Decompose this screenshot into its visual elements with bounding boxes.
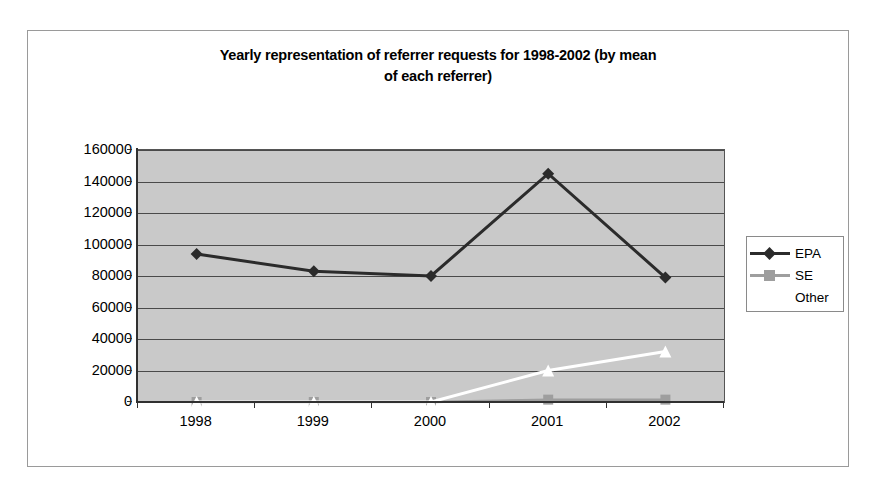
series-plot [138,150,724,402]
y-axis-tick-mark [127,149,132,150]
x-axis-tick-label: 2000 [414,413,446,429]
legend-marker-triangle-icon [764,292,776,303]
x-axis-tick-mark [137,401,138,408]
x-axis-tick-mark [371,401,372,408]
series-line [197,174,666,278]
plot-area [137,149,725,403]
y-axis-tick-label: 140000 [50,173,132,189]
x-axis-tick-mark [254,401,255,408]
data-point [543,395,553,405]
y-axis-line [136,148,138,403]
chart-legend: EPASEOther [746,236,844,312]
x-axis-tick-label: 1999 [297,413,329,429]
data-point [308,265,320,277]
x-axis-tick-labels: 19981999200020012002 [137,413,723,439]
legend-swatch-triangle-icon [750,290,790,304]
chart-title: Yearly representation of referrer reques… [88,45,788,87]
y-axis-tick-label: 60000 [50,299,132,315]
legend-item-other[interactable]: Other [751,286,837,308]
data-point [660,395,670,405]
y-axis-tick-mark [127,370,132,371]
y-axis-tick-label: 160000 [50,141,132,157]
legend-label: SE [795,268,837,283]
y-axis-tick-label: 20000 [50,362,132,378]
y-axis-tick-mark [127,212,132,213]
chart-frame: Yearly representation of referrer reques… [27,30,849,467]
x-axis-tick-label: 1998 [179,413,211,429]
legend-label: EPA [795,246,837,261]
x-axis-line [136,401,724,403]
y-axis-tick-mark [127,338,132,339]
y-axis-tick-mark [127,401,132,402]
y-axis-tick-label: 0 [50,393,132,409]
y-axis-tick-label: 40000 [50,330,132,346]
legend-item-se[interactable]: SE [751,264,837,286]
chart-title-line-1: Yearly representation of referrer reques… [88,45,788,66]
y-axis-tick-label: 100000 [50,236,132,252]
x-axis-tick-mark [489,401,490,408]
y-axis-tick-label: 80000 [50,267,132,283]
legend-label: Other [795,290,837,305]
x-axis-tick-mark [723,401,724,408]
y-axis-tick-label: 120000 [50,204,132,220]
data-point [191,248,203,260]
y-axis-tick-mark [127,307,132,308]
y-axis-tick-labels: 0200004000060000800001000001200001400001… [44,149,132,401]
x-axis-tick-label: 2001 [531,413,563,429]
legend-swatch-diamond-icon [750,246,790,260]
x-axis-tick-label: 2002 [648,413,680,429]
legend-item-epa[interactable]: EPA [751,242,837,264]
series-line [197,352,666,402]
y-axis-tick-mark [127,275,132,276]
legend-marker-diamond-icon [763,247,776,260]
series-epa [191,168,672,284]
chart-title-line-2: of each referrer) [88,66,788,87]
y-axis-tick-mark [127,181,132,182]
legend-marker-square-icon [764,270,775,281]
y-axis-tick-mark [127,244,132,245]
legend-swatch-square-icon [750,268,790,282]
x-axis-tick-mark [606,401,607,408]
